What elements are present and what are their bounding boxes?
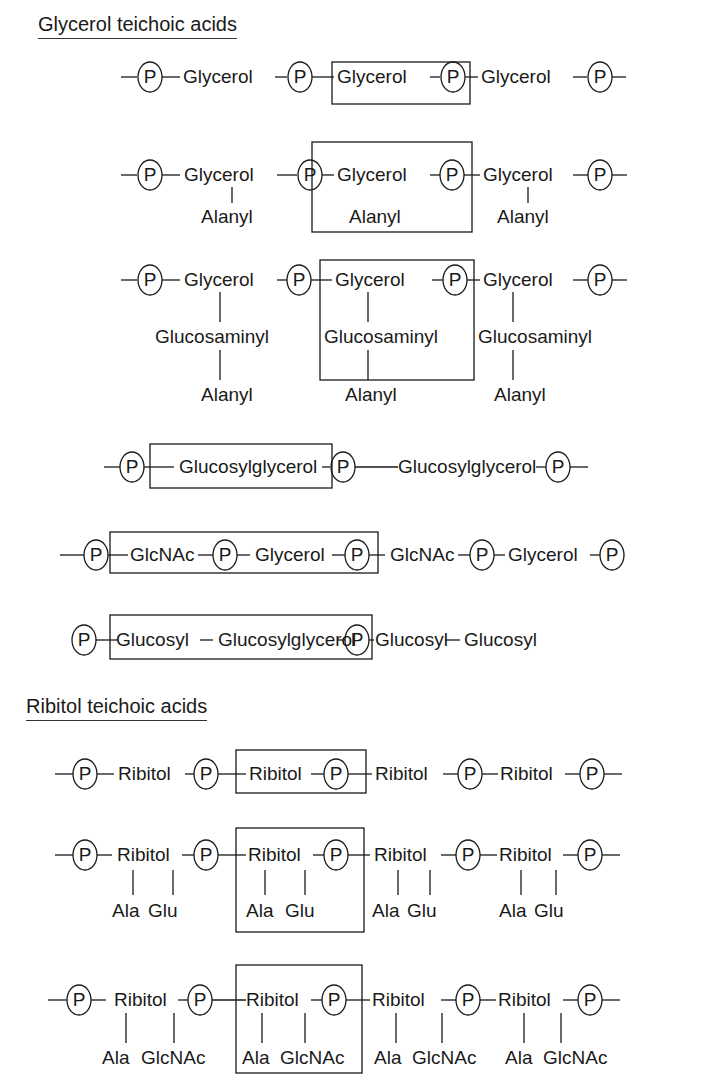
- phosphate-label: P: [122, 456, 142, 478]
- substituent-label: Ala: [374, 1047, 401, 1069]
- substituent-label: Glucosaminyl: [155, 326, 269, 348]
- phosphate-label: P: [590, 66, 610, 88]
- unit-label: Glucosyl: [375, 629, 448, 651]
- unit-label: Ribitol: [375, 763, 428, 785]
- phosphate-label: P: [602, 544, 622, 566]
- repeat-unit-label: Glucosylglycerol: [179, 456, 317, 478]
- phosphate-label: P: [215, 544, 235, 566]
- glycerol-section-title: Glycerol teichoic acids: [38, 12, 237, 39]
- substituent-label: Ala: [372, 900, 399, 922]
- phosphate-label: P: [326, 763, 346, 785]
- unit-label: Ribitol: [374, 844, 427, 866]
- unit-label: GlcNAc: [390, 544, 454, 566]
- unit-label: Glycerol: [184, 269, 254, 291]
- phosphate-label: P: [69, 989, 89, 1011]
- phosphate-label: P: [324, 989, 344, 1011]
- phosphate-label: P: [347, 629, 367, 651]
- phosphate-label: P: [458, 844, 478, 866]
- phosphate-label: P: [580, 844, 600, 866]
- substituent-label: GlcNAc: [141, 1047, 205, 1069]
- repeat-unit-label: Glycerol: [337, 164, 407, 186]
- phosphate-label: P: [196, 844, 216, 866]
- substituent-label: Alanyl: [201, 384, 253, 406]
- phosphate-label: P: [472, 544, 492, 566]
- substituent-label: Alanyl: [349, 206, 401, 228]
- substituent-label: Ala: [246, 900, 273, 922]
- substituent-label: Ala: [112, 900, 139, 922]
- phosphate-label: P: [196, 763, 216, 785]
- unit-label: Ribitol: [499, 844, 552, 866]
- substituent-label: GlcNAc: [280, 1047, 344, 1069]
- phosphate-label: P: [140, 66, 160, 88]
- substituent-label: Alanyl: [201, 206, 253, 228]
- phosphate-label: P: [580, 989, 600, 1011]
- substituent-label: Ala: [505, 1047, 532, 1069]
- repeat-unit-label: Ribitol: [248, 844, 301, 866]
- phosphate-label: P: [290, 66, 310, 88]
- unit-label: Glycerol: [183, 66, 253, 88]
- substituent-label: Glu: [407, 900, 437, 922]
- phosphate-label: P: [74, 629, 94, 651]
- phosphate-label: P: [460, 763, 480, 785]
- unit-label: Ribitol: [372, 989, 425, 1011]
- unit-label: Glucosylglycerol: [398, 456, 536, 478]
- unit-label: Ribitol: [500, 763, 553, 785]
- substituent-label: Glu: [534, 900, 564, 922]
- phosphate-label: P: [75, 763, 95, 785]
- substituent-label: GlcNAc: [412, 1047, 476, 1069]
- unit-label: Ribitol: [114, 989, 167, 1011]
- phosphate-label: P: [445, 269, 465, 291]
- unit-label: Glycerol: [184, 164, 254, 186]
- phosphate-label: P: [590, 164, 610, 186]
- unit-label: Glucosyl: [464, 629, 537, 651]
- substituent-label: Glucosaminyl: [478, 326, 592, 348]
- unit-label: Ribitol: [117, 844, 170, 866]
- phosphate-label: P: [140, 269, 160, 291]
- substituent-label: Alanyl: [345, 384, 397, 406]
- phosphate-label: P: [458, 989, 478, 1011]
- repeat-unit-label: Glucosylglycerol: [218, 629, 356, 651]
- phosphate-label: P: [140, 164, 160, 186]
- phosphate-label: P: [582, 763, 602, 785]
- phosphate-label: P: [347, 544, 367, 566]
- phosphate-label: P: [289, 269, 309, 291]
- substituent-label: Ala: [102, 1047, 129, 1069]
- substituent-label: GlcNAc: [543, 1047, 607, 1069]
- unit-label: Glycerol: [481, 66, 551, 88]
- phosphate-label: P: [442, 164, 462, 186]
- phosphate-label: P: [590, 269, 610, 291]
- unit-label: Ribitol: [498, 989, 551, 1011]
- phosphate-label: P: [86, 544, 106, 566]
- repeat-unit-label: Glycerol: [255, 544, 325, 566]
- repeat-unit-label: Glycerol: [337, 66, 407, 88]
- phosphate-label: P: [300, 164, 320, 186]
- substituent-label: Alanyl: [497, 206, 549, 228]
- repeat-unit-label: Ribitol: [249, 763, 302, 785]
- ribitol-section-title: Ribitol teichoic acids: [26, 694, 207, 721]
- phosphate-label: P: [548, 456, 568, 478]
- repeat-unit-label: Glucosyl: [116, 629, 189, 651]
- phosphate-label: P: [443, 66, 463, 88]
- substituent-label: Glu: [148, 900, 178, 922]
- repeat-unit-label: GlcNAc: [130, 544, 194, 566]
- unit-label: Glycerol: [483, 269, 553, 291]
- unit-label: Glycerol: [483, 164, 553, 186]
- substituent-label: Alanyl: [494, 384, 546, 406]
- substituent-label: Glu: [285, 900, 315, 922]
- substituent-label: Glucosaminyl: [324, 326, 438, 348]
- phosphate-label: P: [190, 989, 210, 1011]
- substituent-label: Ala: [242, 1047, 269, 1069]
- phosphate-label: P: [333, 456, 353, 478]
- substituent-label: Ala: [499, 900, 526, 922]
- repeat-unit-label: Glycerol: [335, 269, 405, 291]
- repeat-unit-label: Ribitol: [246, 989, 299, 1011]
- unit-label: Glycerol: [508, 544, 578, 566]
- phosphate-label: P: [75, 844, 95, 866]
- unit-label: Ribitol: [118, 763, 171, 785]
- phosphate-label: P: [326, 844, 346, 866]
